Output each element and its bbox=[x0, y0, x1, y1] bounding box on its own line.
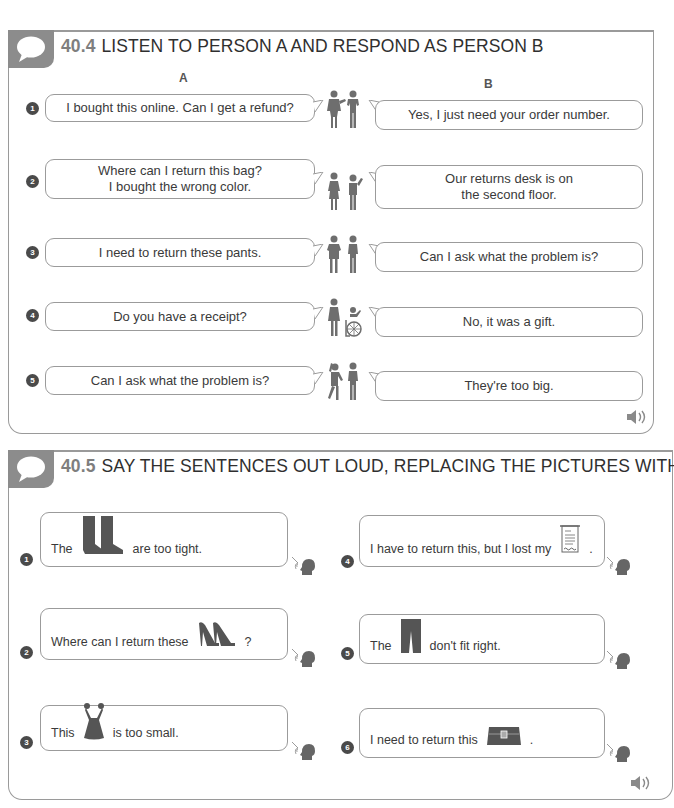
exercise-header-badge bbox=[8, 450, 54, 488]
column-b-label: B bbox=[484, 77, 493, 91]
bubble-line: I bought the wrong color. bbox=[109, 179, 251, 195]
exercise-instruction: LISTEN TO PERSON A AND RESPOND AS PERSON… bbox=[101, 36, 543, 56]
person-b-bubble: Our returns desk is on the second floor. bbox=[375, 165, 643, 209]
sentence-bubble: The are too tight. bbox=[40, 512, 288, 567]
person-a-bubble: Do you have a receipt? bbox=[45, 302, 315, 331]
sentence-after: . bbox=[589, 542, 592, 556]
item-number: 6 bbox=[341, 741, 354, 754]
speaking-head-icon bbox=[607, 557, 631, 577]
speaking-head-icon bbox=[292, 742, 316, 762]
speaker-icon[interactable] bbox=[629, 775, 651, 791]
high-heels-icon bbox=[197, 621, 237, 649]
sentence-before: This bbox=[51, 726, 75, 740]
pants-icon bbox=[400, 619, 422, 653]
person-a-bubble: I need to return these pants. bbox=[45, 238, 315, 267]
bubble-line: Where can I return this bag? bbox=[98, 163, 262, 179]
person-and-wheelchair-user-icon bbox=[322, 298, 366, 338]
speaking-head-icon bbox=[292, 649, 316, 669]
row-number: 1 bbox=[26, 102, 39, 115]
sentence-before: Where can I return these bbox=[51, 635, 189, 649]
sentence-bubble: Where can I return these ? bbox=[40, 608, 288, 660]
boots-icon bbox=[81, 514, 125, 556]
person-b-bubble: Can I ask what the problem is? bbox=[375, 242, 643, 272]
sentence-before: I have to return this, but I lost my bbox=[370, 542, 551, 556]
speech-bubble-icon bbox=[16, 455, 46, 483]
sentence-after: is too small. bbox=[113, 726, 179, 740]
sentence-line: The are too tight. bbox=[51, 514, 202, 556]
sentence-line: This is too small. bbox=[51, 702, 179, 740]
exercise-title: 40.5SAY THE SENTENCES OUT LOUD, REPLACIN… bbox=[61, 456, 674, 477]
two-people-icon bbox=[322, 172, 366, 212]
sentence-after: don't fit right. bbox=[430, 639, 501, 653]
dress-icon bbox=[83, 702, 105, 740]
exercise-number: 40.5 bbox=[61, 456, 95, 476]
bubble-line: the second floor. bbox=[461, 187, 556, 203]
two-people-icon bbox=[322, 90, 366, 130]
exercise-title: 40.4LISTEN TO PERSON A AND RESPOND AS PE… bbox=[61, 36, 544, 57]
handbag-icon bbox=[486, 725, 522, 747]
sentence-after: are too tight. bbox=[133, 542, 203, 556]
person-b-bubble: No, it was a gift. bbox=[375, 307, 643, 337]
person-a-bubble: I bought this online. Can I get a refund… bbox=[45, 94, 315, 122]
receipt-icon bbox=[559, 524, 581, 556]
item-number: 1 bbox=[20, 553, 33, 566]
person-a-bubble: Can I ask what the problem is? bbox=[45, 366, 315, 395]
exercise-40-4-panel: 40.4LISTEN TO PERSON A AND RESPOND AS PE… bbox=[8, 30, 654, 434]
row-number: 5 bbox=[26, 374, 39, 387]
sentence-before: The bbox=[370, 639, 392, 653]
person-b-bubble: They're too big. bbox=[375, 371, 643, 401]
sentence-line: I have to return this, but I lost my . bbox=[370, 524, 593, 556]
person-b-bubble: Yes, I just need your order number. bbox=[375, 100, 643, 130]
sentence-line: The don't fit right. bbox=[370, 619, 501, 653]
item-number: 5 bbox=[341, 647, 354, 660]
item-number: 4 bbox=[341, 555, 354, 568]
item-number: 2 bbox=[20, 646, 33, 659]
exercise-number: 40.4 bbox=[61, 36, 95, 56]
speaking-head-icon bbox=[607, 651, 631, 671]
row-number: 3 bbox=[26, 246, 39, 259]
sentence-bubble: I have to return this, but I lost my . bbox=[359, 515, 605, 567]
sentence-bubble: The don't fit right. bbox=[359, 614, 605, 664]
column-a-label: A bbox=[179, 71, 188, 85]
sentence-before: The bbox=[51, 542, 73, 556]
speaker-icon[interactable] bbox=[625, 409, 647, 425]
sentence-bubble: I need to return this . bbox=[359, 708, 605, 758]
exercise-instruction: SAY THE SENTENCES OUT LOUD, REPLACING TH… bbox=[101, 456, 674, 476]
speech-bubble-icon bbox=[16, 35, 46, 63]
two-people-icon bbox=[322, 362, 366, 402]
sentence-after: ? bbox=[245, 635, 252, 649]
row-number: 4 bbox=[26, 309, 39, 322]
sentence-after: . bbox=[530, 733, 533, 747]
sentence-before: I need to return this bbox=[370, 733, 478, 747]
row-number: 2 bbox=[26, 175, 39, 188]
sentence-line: Where can I return these ? bbox=[51, 621, 252, 649]
person-a-bubble: Where can I return this bag? I bought th… bbox=[45, 159, 315, 199]
exercise-40-5-panel: 40.5SAY THE SENTENCES OUT LOUD, REPLACIN… bbox=[8, 450, 673, 800]
speaking-head-icon bbox=[292, 557, 316, 577]
two-people-icon bbox=[322, 235, 366, 275]
exercise-header-badge bbox=[8, 30, 54, 68]
speaking-head-icon bbox=[607, 744, 631, 764]
sentence-line: I need to return this . bbox=[370, 725, 533, 747]
item-number: 3 bbox=[20, 736, 33, 749]
sentence-bubble: This is too small. bbox=[40, 705, 288, 751]
bubble-line: Our returns desk is on bbox=[445, 171, 573, 187]
